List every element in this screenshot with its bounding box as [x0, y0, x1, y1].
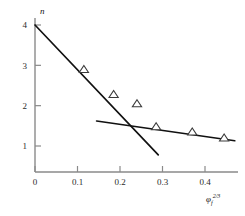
x-tick-label-0.1: 0.1 — [72, 177, 83, 187]
x-tick-label-0.2: 0.2 — [114, 177, 125, 187]
x-tick-label-0.3: 0.3 — [157, 177, 169, 187]
chart-container: 1234 00.10.20.30.4 n φf2/3 — [0, 0, 245, 216]
y-tick-label-3: 3 — [23, 61, 28, 71]
x-tick-label-0.4: 0.4 — [199, 177, 211, 187]
scatter-plot: 1234 00.10.20.30.4 n φf2/3 — [0, 0, 245, 216]
y-tick-label-2: 2 — [23, 101, 28, 111]
y-tick-label-1: 1 — [23, 141, 28, 151]
x-tick-label-0: 0 — [33, 177, 38, 187]
y-tick-label-4: 4 — [23, 20, 28, 30]
y-axis-title: n — [40, 6, 45, 16]
